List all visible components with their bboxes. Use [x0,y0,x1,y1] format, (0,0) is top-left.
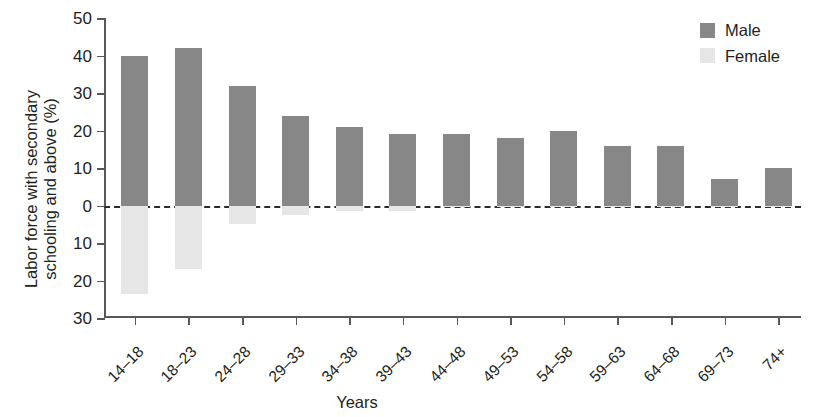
x-tick-mark [135,317,137,325]
bar-male [336,127,363,206]
legend-swatch-icon [700,48,715,63]
bar-female [336,206,363,212]
y-tick-mark [97,18,105,20]
bar-female [121,206,148,294]
x-axis-title: Years [0,393,814,412]
y-tick-label: 0 [46,197,92,214]
bar-female [657,206,684,208]
legend-item: Female [700,48,814,65]
bar-group [497,18,524,318]
x-tick-mark [778,317,780,325]
bar-male [497,138,524,206]
x-tick-mark [510,317,512,325]
bar-group [175,18,202,318]
bar-group [229,18,256,318]
bar-group [550,18,577,318]
x-tick-mark [671,317,673,325]
y-tick-mark [97,131,105,133]
bar-male [121,56,148,206]
x-tick-mark [296,317,298,325]
bar-male [282,116,309,206]
bar-group [604,18,631,318]
y-tick-mark [97,318,105,320]
y-tick-mark [97,281,105,283]
bar-female [497,206,524,208]
x-tick-mark [725,317,727,325]
bar-group [389,18,416,318]
bar-male [657,146,684,206]
legend-swatch-icon [700,23,715,38]
y-tick-mark [97,168,105,170]
bar-group [443,18,470,318]
y-tick-label: 20 [46,272,92,289]
bar-female [389,206,416,212]
bar-female [175,206,202,270]
x-tick-mark [403,317,405,325]
x-tick-mark [242,317,244,325]
bar-male [229,86,256,206]
bar-male [765,168,792,206]
bar-male [443,134,470,205]
bar-female [550,206,577,208]
legend-item: Male [700,22,814,39]
y-tick-label: 10 [46,235,92,252]
legend: MaleFemale [700,22,814,73]
x-tick-mark [564,317,566,325]
y-axis-tick-labels: 50403020100102030 [44,0,92,417]
bar-female [765,206,792,207]
y-axis-title-line1: Labor force with secondary [22,90,41,288]
bar-group [121,18,148,318]
bar-chart: Labor force with secondary schooling and… [0,0,814,417]
x-tick-mark [617,317,619,325]
x-axis-title-text: Years [336,393,378,411]
y-tick-mark [97,93,105,95]
bar-female [711,206,738,207]
bar-male [711,179,738,205]
y-tick-label: 30 [46,310,92,327]
y-tick-mark [97,243,105,245]
y-tick-label: 20 [46,122,92,139]
bar-group [336,18,363,318]
x-tick-mark [188,317,190,325]
bar-male [604,146,631,206]
bar-male [175,48,202,206]
bar-female [229,206,256,225]
bar-group [282,18,309,318]
bar-group [657,18,684,318]
bar-male [550,131,577,206]
y-tick-label: 10 [46,160,92,177]
y-tick-mark [97,56,105,58]
y-tick-label: 30 [46,85,92,102]
bar-female [604,206,631,208]
bar-female [443,206,470,208]
y-tick-mark [97,206,105,208]
x-tick-mark [349,317,351,325]
legend-label: Male [725,22,761,39]
y-tick-label: 50 [46,10,92,27]
bar-male [389,134,416,205]
legend-label: Female [725,48,780,65]
y-tick-label: 40 [46,47,92,64]
bar-female [282,206,309,215]
plot-area [104,18,801,318]
x-tick-mark [457,317,459,325]
